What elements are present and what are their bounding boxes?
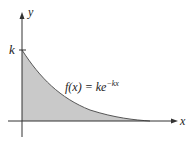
function-label: f(x) = ke−kx [65,80,119,93]
function-label-exponent: −kx [106,79,119,88]
y-axis-arrow-icon [20,12,25,19]
x-axis-label: x [180,115,185,127]
x-axis-arrow-icon [171,119,178,124]
y-axis-label: y [28,6,33,18]
k-tick-label: k [9,43,15,56]
diagram-canvas [0,0,188,143]
function-label-base: f(x) = ke [65,80,106,94]
